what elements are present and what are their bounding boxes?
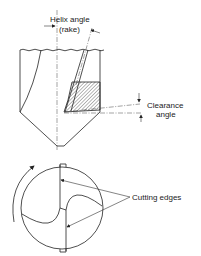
leader-line-upper — [61, 180, 130, 197]
land-notch-top — [60, 164, 66, 167]
helix-arrow-right — [91, 30, 100, 33]
helix-reference-line — [76, 28, 92, 85]
leader-line-lower — [67, 197, 130, 227]
drill-side-view: Helix angle (rake) Clearance angle — [20, 10, 184, 150]
label-clearance: Clearance — [147, 101, 184, 110]
label-angle: angle — [156, 110, 176, 119]
land-notch-bottom — [60, 249, 66, 252]
drill-diagram: Helix angle (rake) Clearance angle Cutti… — [0, 0, 201, 256]
flute-right — [66, 195, 102, 210]
drill-end-view: Cutting edges — [13, 164, 182, 252]
flute-left — [22, 208, 60, 223]
flute-edge-left — [20, 50, 41, 112]
chisel-edge — [60, 208, 66, 210]
break-line — [20, 49, 104, 51]
label-rake: (rake) — [59, 25, 80, 34]
drill-end-circle — [21, 167, 103, 249]
label-helix-angle: Helix angle — [50, 15, 90, 24]
label-cutting-edges: Cutting edges — [132, 193, 181, 202]
cutting-lip-hatch — [64, 82, 100, 112]
